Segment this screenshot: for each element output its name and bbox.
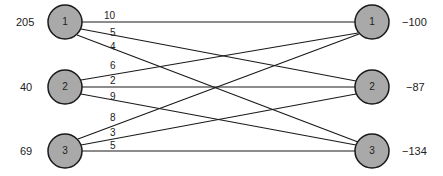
supply-3: 69 xyxy=(20,145,32,157)
cost-s2-d1: 6 xyxy=(110,60,116,71)
cost-s2-d3: 9 xyxy=(110,91,116,102)
destination-label-3: 3 xyxy=(362,145,382,156)
cost-s1-d2: 5 xyxy=(110,27,116,38)
cost-s3-d3: 5 xyxy=(110,140,116,151)
edges xyxy=(77,22,359,151)
destination-label-2: 2 xyxy=(362,81,382,92)
supply-2: 40 xyxy=(20,81,32,93)
destination-label-1: 1 xyxy=(362,16,382,27)
cost-s3-d2: 3 xyxy=(110,127,116,138)
cost-s1-d3: 4 xyxy=(110,41,116,52)
demand-1: −100 xyxy=(402,16,427,28)
source-label-2: 2 xyxy=(55,81,75,92)
source-label-1: 1 xyxy=(55,16,75,27)
demand-3: −134 xyxy=(402,145,427,157)
cost-s2-d2: 2 xyxy=(110,75,116,86)
cost-s3-d1: 8 xyxy=(110,112,116,123)
cost-s1-d1: 10 xyxy=(104,10,115,21)
source-label-3: 3 xyxy=(55,145,75,156)
supply-1: 205 xyxy=(16,16,34,28)
demand-2: −87 xyxy=(406,81,425,93)
edge-s1-d3 xyxy=(77,35,358,142)
